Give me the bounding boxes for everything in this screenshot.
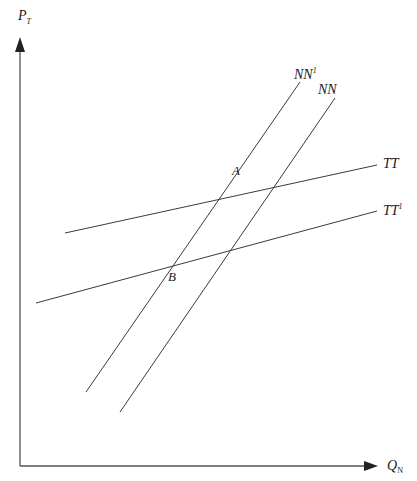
curve-label-nn: NN (317, 82, 337, 97)
diagram-canvas: PT QN NN1 NN TT TT1 A B (0, 0, 417, 481)
curve-label-nn1: NN1 (293, 66, 317, 82)
x-axis-arrow-icon (364, 461, 378, 471)
curve-tt (65, 165, 377, 233)
curve-label-tt: TT (383, 156, 400, 171)
curve-nn (120, 98, 335, 412)
curve-label-tt1: TT1 (383, 202, 403, 218)
point-label-b: B (168, 269, 176, 284)
point-label-a: A (231, 163, 240, 178)
curve-tt1 (36, 211, 377, 303)
y-axis-arrow-icon (15, 37, 25, 52)
x-axis-label: QN (387, 458, 403, 475)
curve-nn1 (86, 82, 300, 392)
y-axis-label: PT (17, 8, 32, 26)
